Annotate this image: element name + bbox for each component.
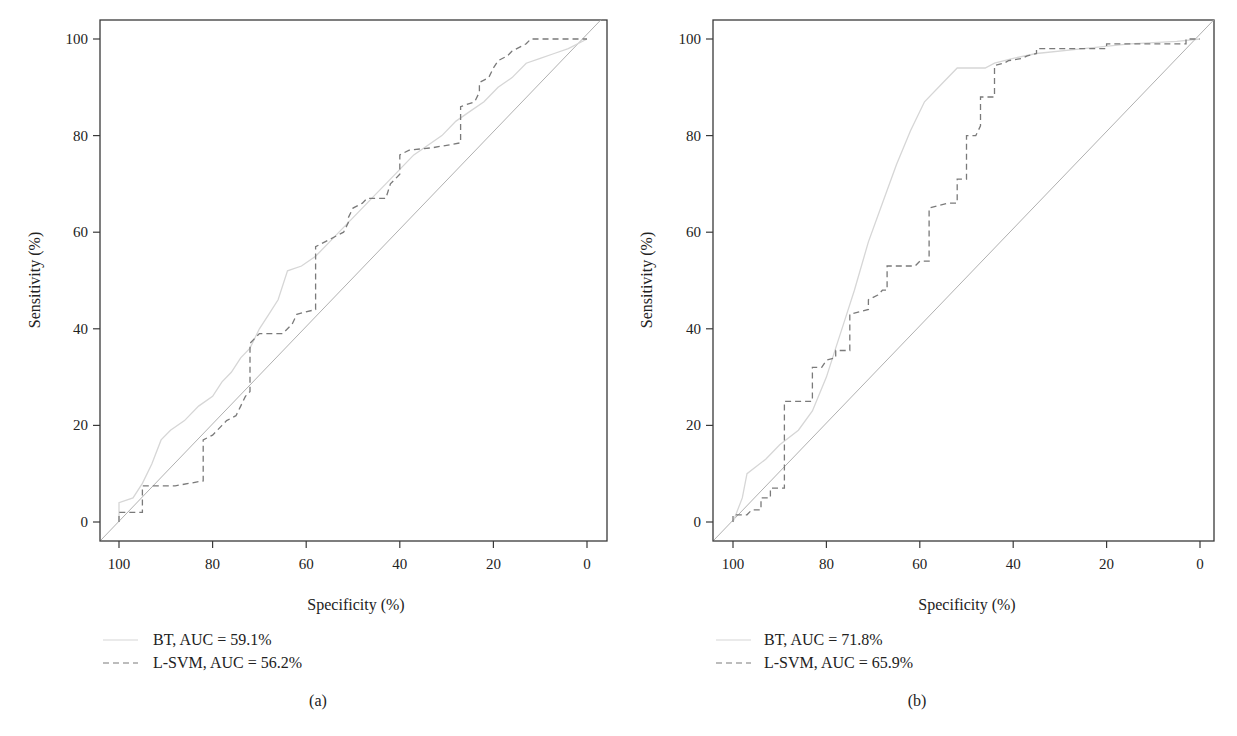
legend: BT, AUC = 59.1% L-SVM, AUC = 56.2% xyxy=(103,631,302,671)
panel-label: (a) xyxy=(309,692,327,710)
x-tick-label: 100 xyxy=(108,556,131,572)
x-tick-label: 20 xyxy=(1099,556,1114,572)
y-tick-label: 40 xyxy=(73,321,88,337)
plot-area xyxy=(714,20,1214,540)
y-axis-title: Sensitivity (%) xyxy=(638,232,656,328)
x-tick-label: 80 xyxy=(819,556,834,572)
legend-bt-label: BT, AUC = 59.1% xyxy=(153,631,272,648)
y-tick-label: 20 xyxy=(73,417,88,433)
x-axis: 100806040200 xyxy=(722,541,1204,572)
y-tick-label: 0 xyxy=(694,514,702,530)
x-axis: 100806040200 xyxy=(108,541,591,572)
x-tick-label: 60 xyxy=(912,556,927,572)
y-axis: 020406080100 xyxy=(66,31,101,530)
legend: BT, AUC = 71.8% L-SVM, AUC = 65.9% xyxy=(716,631,913,671)
plot-frame xyxy=(100,20,607,541)
y-tick-label: 20 xyxy=(686,417,701,433)
x-tick-label: 20 xyxy=(486,556,501,572)
y-tick-label: 100 xyxy=(679,31,702,47)
roc-panel-b: 020406080100 100806040200 Sensitivity (%… xyxy=(638,20,1214,710)
y-axis-title: Sensitivity (%) xyxy=(26,232,44,328)
y-tick-label: 60 xyxy=(73,224,88,240)
x-axis-title: Specificity (%) xyxy=(918,596,1015,614)
y-axis: 020406080100 xyxy=(679,31,714,530)
x-axis-title: Specificity (%) xyxy=(307,596,404,614)
roc-panel-a: 020406080100 100806040200 Sensitivity (%… xyxy=(26,20,607,710)
panel-label: (b) xyxy=(908,692,927,710)
y-tick-label: 80 xyxy=(73,128,88,144)
bt-roc-curve xyxy=(733,39,1200,522)
lsvm-roc-curve xyxy=(119,39,587,522)
x-tick-label: 100 xyxy=(722,556,745,572)
chance-diagonal-line xyxy=(714,20,1214,540)
lsvm-roc-curve xyxy=(733,39,1200,522)
roc-figure: 020406080100 100806040200 Sensitivity (%… xyxy=(0,0,1237,736)
x-tick-label: 0 xyxy=(583,556,591,572)
y-tick-label: 60 xyxy=(686,224,701,240)
x-tick-label: 40 xyxy=(1006,556,1021,572)
x-tick-label: 80 xyxy=(205,556,220,572)
legend-bt-label: BT, AUC = 71.8% xyxy=(764,631,883,648)
x-tick-label: 60 xyxy=(299,556,314,572)
bt-roc-curve xyxy=(119,39,587,522)
y-tick-label: 100 xyxy=(66,31,89,47)
x-tick-label: 40 xyxy=(392,556,407,572)
chance-diagonal-line xyxy=(101,20,601,540)
y-tick-label: 0 xyxy=(81,514,89,530)
plot-area xyxy=(101,20,601,540)
y-tick-label: 40 xyxy=(686,321,701,337)
y-tick-label: 80 xyxy=(686,128,701,144)
legend-lsvm-label: L-SVM, AUC = 56.2% xyxy=(153,654,302,671)
legend-lsvm-label: L-SVM, AUC = 65.9% xyxy=(764,654,913,671)
x-tick-label: 0 xyxy=(1196,556,1204,572)
